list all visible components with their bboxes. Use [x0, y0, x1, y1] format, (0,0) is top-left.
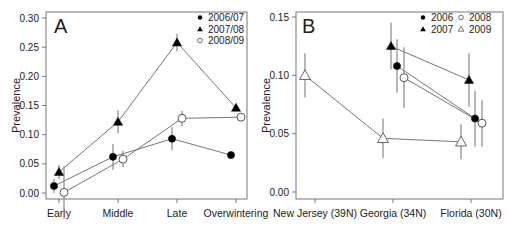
data-point-2009 [300, 70, 311, 80]
x-tick-label: Late [167, 207, 188, 219]
panel-a: 0.000.050.100.150.200.250.30EarlyMiddleL… [10, 12, 269, 219]
data-point-2006 [393, 62, 400, 69]
data-point-2008 [400, 74, 408, 82]
legend: 2006200820072009 [420, 12, 491, 35]
y-tick-label: 0.15 [20, 100, 40, 111]
y-tick-label: 0.15 [270, 12, 290, 23]
legend-label: 2008 [469, 12, 492, 23]
legend-label: 2008/09 [208, 35, 245, 46]
data-point-2008/09 [119, 155, 127, 163]
legend-label: 2006/07 [208, 12, 245, 23]
x-tick-label: Early [47, 207, 72, 219]
data-point-2006/07 [109, 153, 116, 160]
legend-label: 2006 [431, 12, 454, 23]
y-axis-label: Prevalence [260, 78, 272, 133]
legend: 2006/072007/082008/09 [197, 12, 244, 46]
series-line-2006 [397, 66, 475, 119]
legend-marker [459, 15, 464, 20]
data-point-2008/09 [178, 114, 186, 122]
legend-label: 2007 [431, 24, 454, 35]
panel-b: 0.000.050.100.15New Jersey (39N)Georgia … [260, 12, 503, 220]
x-tick-label: Middle [103, 207, 134, 219]
x-tick-label: Overwintering [204, 207, 269, 219]
series-line-2007/08 [59, 43, 236, 173]
x-tick-label: New Jersey (39N) [273, 207, 357, 219]
y-tick-label: 0.05 [270, 128, 290, 139]
legend-marker [197, 26, 203, 31]
data-point-2009 [378, 133, 389, 143]
legend-marker [458, 26, 464, 31]
y-tick-label: 0.00 [270, 187, 290, 198]
y-tick-label: 0.10 [270, 70, 290, 81]
legend-marker [421, 15, 425, 19]
data-point-2007/08 [172, 38, 181, 46]
data-point-2007 [464, 75, 473, 83]
y-tick-label: 0.10 [20, 129, 40, 140]
data-point-2008/09 [237, 113, 245, 121]
data-point-2006/07 [168, 135, 175, 142]
panel-label: A [54, 15, 68, 37]
y-tick-label: 0.25 [20, 42, 40, 53]
panel-label: B [302, 15, 315, 37]
data-point-2008/09 [60, 188, 68, 196]
plot-frame [296, 12, 503, 199]
series-line-2008/09 [64, 117, 241, 192]
legend-label: 2007/08 [208, 24, 245, 35]
x-tick-label: Georgia (34N) [360, 207, 427, 219]
legend-marker [198, 38, 203, 43]
data-point-2006/07 [227, 151, 234, 158]
y-tick-label: 0.05 [20, 158, 40, 169]
data-point-2007 [386, 42, 395, 50]
data-point-2006 [471, 115, 478, 122]
figure: 0.000.050.100.150.200.250.30EarlyMiddleL… [0, 0, 508, 228]
y-axis-label: Prevalence [10, 78, 22, 133]
x-tick-label: Florida (30N) [440, 207, 501, 219]
y-tick-label: 0.30 [20, 13, 40, 24]
legend-label: 2009 [469, 24, 492, 35]
legend-marker [198, 15, 202, 19]
data-point-2006/07 [50, 182, 57, 189]
legend-marker [420, 26, 426, 31]
data-point-2009 [456, 136, 467, 146]
series-line-2008 [404, 78, 482, 124]
y-tick-label: 0.20 [20, 71, 40, 82]
data-point-2008 [478, 119, 486, 127]
y-tick-label: 0.00 [20, 188, 40, 199]
data-point-2007/08 [113, 117, 122, 125]
